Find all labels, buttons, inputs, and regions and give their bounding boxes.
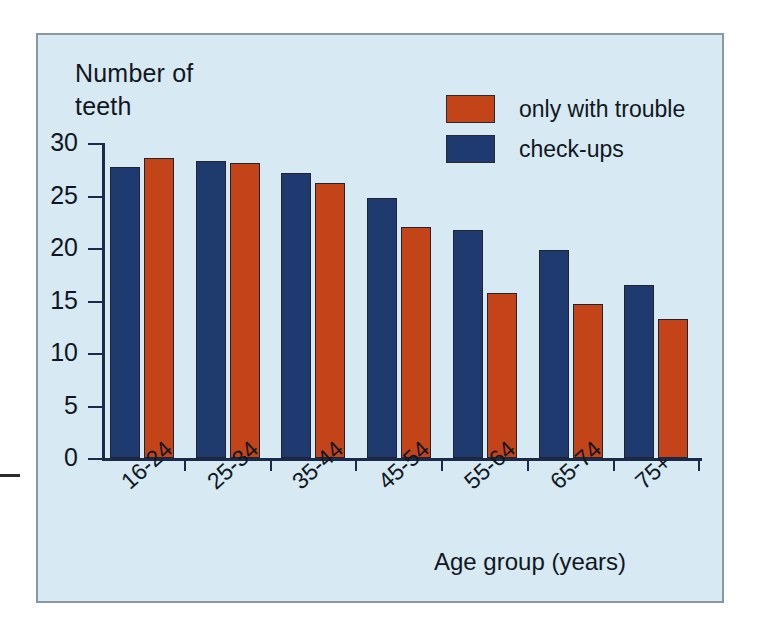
bar-only-with-trouble (315, 183, 345, 458)
x-axis-tick (441, 459, 443, 471)
plot-area: 051015202530 16-2425-3435-4445-5455-6465… (102, 143, 702, 461)
legend-swatch-only-with-trouble (446, 95, 495, 123)
x-axis-tick (613, 459, 615, 471)
x-axis-title: Age group (years) (434, 548, 626, 576)
y-axis-tick: 10 (88, 353, 105, 355)
bar-only-with-trouble (401, 227, 431, 458)
y-axis-tick-label: 5 (64, 390, 78, 419)
bar-only-with-trouble (230, 163, 260, 458)
bar-only-with-trouble (658, 319, 688, 458)
y-axis-tick-label: 25 (50, 180, 78, 209)
bar-check-ups (110, 167, 140, 458)
bar-check-ups (281, 173, 311, 458)
y-axis-tick-label: 0 (64, 443, 78, 472)
y-axis-tick: 5 (88, 406, 105, 408)
bar-only-with-trouble (487, 293, 517, 458)
bar-check-ups (196, 161, 226, 458)
y-axis-tick: 30 (88, 143, 105, 145)
page-surface: Number of teeth only with trouble check-… (0, 0, 757, 636)
bar-check-ups (367, 198, 397, 458)
x-axis-tick (355, 459, 357, 471)
y-axis-tick-label: 15 (50, 285, 78, 314)
y-axis-tick: 0 (88, 458, 105, 460)
bar-check-ups (539, 250, 569, 458)
y-axis-tick-label: 10 (50, 338, 78, 367)
y-axis-tick: 20 (88, 248, 105, 250)
x-axis-tick (184, 459, 186, 471)
x-axis-tick (270, 459, 272, 471)
legend-label-only-with-trouble: only with trouble (519, 96, 685, 123)
chart-frame: Number of teeth only with trouble check-… (36, 33, 724, 603)
x-axis-tick (698, 459, 700, 471)
y-axis-tick: 25 (88, 196, 105, 198)
y-axis-tick: 15 (88, 301, 105, 303)
y-axis-tick-label: 30 (50, 128, 78, 157)
legend-item-only-with-trouble: only with trouble (446, 92, 716, 126)
page-left-rule (0, 474, 20, 477)
bar-check-ups (453, 230, 483, 458)
bar-check-ups (624, 285, 654, 458)
bar-only-with-trouble (144, 158, 174, 458)
x-axis-tick (527, 459, 529, 471)
y-axis-title: Number of teeth (75, 57, 255, 123)
y-axis-tick-label: 20 (50, 233, 78, 262)
